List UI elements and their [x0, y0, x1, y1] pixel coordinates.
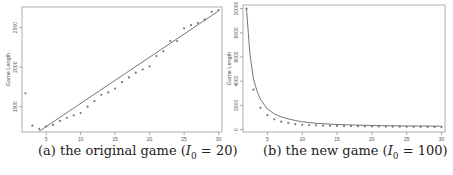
data-point [197, 22, 199, 24]
data-point [336, 125, 338, 127]
y-tick-label: 4000 [233, 75, 239, 86]
caption-new-game: (b) the new game (I0 = 100) [263, 143, 448, 161]
data-point [86, 106, 88, 108]
data-point [322, 124, 324, 126]
data-point [211, 11, 213, 13]
caption-prefix: (a) the original game ( [38, 143, 186, 158]
data-point [142, 68, 144, 70]
x-tick-label: 20 [147, 136, 153, 142]
y-tick-label: 10000 [233, 1, 239, 15]
data-point [266, 114, 268, 116]
caption-prefix: (b) the new game ( [263, 143, 388, 158]
y-tick-label: 6000 [233, 51, 239, 62]
x-tick-label: 25 [181, 136, 187, 142]
x-tick-label: 10 [78, 136, 84, 142]
plot-new-game: 510152025300200040006000800010000Number … [225, 0, 453, 142]
data-point [308, 124, 310, 126]
data-point [183, 27, 185, 29]
x-tick-label: 30 [439, 136, 445, 142]
x-tick-label: 15 [334, 136, 340, 142]
data-point [24, 92, 26, 94]
x-tick-label: 10 [299, 136, 305, 142]
data-point [93, 100, 95, 102]
x-tick-label: 5 [45, 136, 48, 142]
x-tick-label: 5 [266, 136, 269, 142]
data-point [80, 112, 82, 114]
data-point [128, 76, 130, 78]
plot-original-game: 51015202530150020002500Number of Players… [0, 0, 228, 142]
y-tick-label: 8000 [233, 27, 239, 38]
data-point [162, 50, 164, 52]
x-tick-label: 25 [404, 136, 410, 142]
data-point [315, 124, 317, 126]
x-tick-label: 20 [369, 136, 375, 142]
data-point [114, 87, 116, 89]
data-point [107, 91, 109, 93]
x-tick-label: 30 [216, 136, 222, 142]
data-point [259, 107, 261, 109]
y-axis-label: Game Length [226, 52, 232, 85]
data-point [273, 118, 275, 120]
x-tick-label: 15 [112, 136, 118, 142]
y-axis-label: Game Length [5, 53, 11, 86]
data-point [252, 89, 254, 91]
data-point [100, 94, 102, 96]
caption-suffix: = 20) [197, 143, 238, 158]
y-tick-label: 1500 [12, 101, 18, 112]
data-point [135, 72, 137, 74]
data-point [294, 123, 296, 125]
data-point [280, 121, 282, 123]
y-tick-label: 2500 [12, 22, 18, 33]
data-point [169, 40, 171, 42]
chart-original-game: 51015202530150020002500Number of Players… [0, 0, 228, 142]
fitted-line [39, 11, 218, 131]
fitted-line [246, 9, 441, 127]
y-tick-label: 2000 [12, 61, 18, 72]
data-point [66, 117, 68, 119]
data-point [329, 125, 331, 127]
data-point [148, 65, 150, 67]
data-point [287, 122, 289, 124]
data-point [52, 124, 54, 126]
data-point [190, 24, 192, 26]
plot-frame [22, 7, 222, 132]
caption-original-game: (a) the original game (I0 = 20) [38, 143, 238, 161]
data-point [31, 125, 33, 127]
y-tick-label: 2000 [233, 100, 239, 111]
data-point [176, 40, 178, 42]
chart-new-game: 510152025300200040006000800010000Number … [225, 0, 453, 142]
caption-suffix: = 100) [399, 143, 448, 158]
data-point [121, 81, 123, 83]
data-point [38, 128, 40, 130]
data-point [301, 124, 303, 126]
data-point [155, 55, 157, 57]
y-tick-label: 0 [233, 128, 239, 131]
data-point [73, 114, 75, 116]
data-point [59, 120, 61, 122]
